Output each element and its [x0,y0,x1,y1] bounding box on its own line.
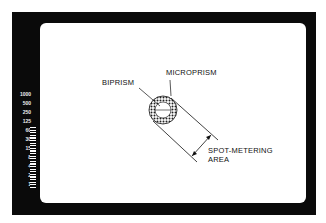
label-biprism: BIPRISM [102,79,134,87]
label-spot-metering: SPOT-METERING [208,147,273,155]
label-microprism: MICROPRISM [166,69,217,77]
label-area: AREA [208,156,229,164]
diagram-lines [0,0,326,223]
